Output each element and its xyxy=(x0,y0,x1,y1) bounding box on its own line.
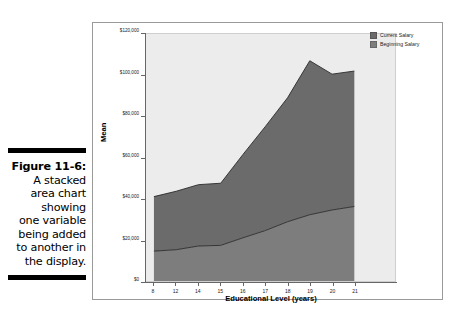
y-tick-mark-6 xyxy=(141,33,145,34)
x-tick-mark-6 xyxy=(288,282,289,286)
stacked-area-svg xyxy=(146,34,395,281)
caption-line-0: Figure 11-6: xyxy=(8,160,86,174)
x-tick-mark-7 xyxy=(310,282,311,286)
y-tick-label-6: $120,000 xyxy=(120,28,139,33)
chart-legend: Current SalaryBeginning Salary xyxy=(370,31,419,49)
legend-swatch-icon-0 xyxy=(370,32,377,39)
y-axis-title: Mean xyxy=(99,123,108,142)
x-tick-mark-3 xyxy=(220,282,221,286)
x-tick-mark-0 xyxy=(153,282,154,286)
caption-line-4: one variable xyxy=(8,214,86,228)
y-tick-label-3: $60,000 xyxy=(122,153,139,158)
caption-line-7: the display. xyxy=(8,255,86,269)
y-tick-label-4: $80,000 xyxy=(122,111,139,116)
x-tick-mark-1 xyxy=(175,282,176,286)
legend-item-0[interactable]: Current Salary xyxy=(370,31,419,39)
figure-frame: Mean $0$20,000$40,000$60,000$80,000$100,… xyxy=(92,22,443,300)
y-tick-label-5: $100,000 xyxy=(120,70,139,75)
y-tick-mark-4 xyxy=(141,116,145,117)
legend-label-1: Beginning Salary xyxy=(380,41,419,47)
y-tick-label-2: $40,000 xyxy=(122,194,139,199)
chart-container: Mean $0$20,000$40,000$60,000$80,000$100,… xyxy=(93,23,442,299)
caption-line-2: area chart xyxy=(8,187,86,201)
caption-line-3: showing xyxy=(8,201,86,215)
caption-rule-bottom xyxy=(8,275,86,280)
legend-label-0: Current Salary xyxy=(380,32,413,38)
legend-item-1[interactable]: Beginning Salary xyxy=(370,40,419,48)
y-tick-label-1: $20,000 xyxy=(122,236,139,241)
y-tick-mark-3 xyxy=(141,158,145,159)
x-tick-mark-8 xyxy=(333,282,334,286)
caption-line-5: being added xyxy=(8,228,86,242)
x-axis-title: Educational Level (years) xyxy=(145,294,397,303)
x-tick-mark-9 xyxy=(355,282,356,286)
y-tick-label-0: $0 xyxy=(134,277,139,282)
y-tick-mark-1 xyxy=(141,241,145,242)
y-tick-mark-5 xyxy=(141,75,145,76)
figure-caption-block: Figure 11-6:A stackedarea chartshowingon… xyxy=(8,148,86,280)
legend-swatch-icon-1 xyxy=(370,41,377,48)
y-axis-line xyxy=(145,33,146,282)
caption-rule-top xyxy=(8,148,86,153)
y-tick-mark-2 xyxy=(141,199,145,200)
x-axis-line xyxy=(145,282,397,283)
x-tick-mark-4 xyxy=(243,282,244,286)
caption-line-1: A stacked xyxy=(8,174,86,188)
figure-caption-text: Figure 11-6:A stackedarea chartshowingon… xyxy=(8,160,86,268)
caption-line-6: to another in xyxy=(8,241,86,255)
x-tick-mark-2 xyxy=(198,282,199,286)
plot-area xyxy=(145,33,396,282)
x-tick-mark-5 xyxy=(265,282,266,286)
